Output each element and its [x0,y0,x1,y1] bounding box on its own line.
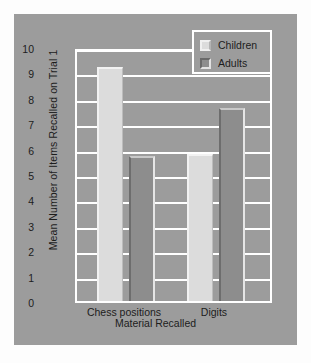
legend-item-adults: Adults [200,54,270,72]
y-axis-tick-label: 9 [8,68,34,80]
bar-children-0 [97,67,123,301]
legend-label-children: Children [218,39,257,51]
y-axis-tick-label: 8 [8,94,34,106]
plot-area [75,49,272,303]
bar-adults-1 [219,108,245,301]
y-axis-tick-label: 6 [8,145,34,157]
y-axis-tick-label: 1 [8,272,34,284]
bar-children-1 [187,154,213,301]
x-axis-title: Material Recalled [14,317,297,329]
y-axis-tick-label: 0 [8,297,34,309]
legend-swatch-adults-icon [200,58,211,69]
legend: Children Adults [192,30,272,74]
y-axis-tick-label: 4 [8,195,34,207]
y-axis-tick-label: 10 [8,43,34,55]
legend-item-children: Children [200,36,270,54]
y-axis-tick-label: 2 [8,246,34,258]
y-axis-tick-label: 7 [8,119,34,131]
y-axis-tick-label: 5 [8,170,34,182]
y-axis-tick-label: 3 [8,221,34,233]
chart-figure: Mean Number of Items Recalled on Trial 1… [14,14,297,345]
legend-label-adults: Adults [218,57,247,69]
y-axis-title: Mean Number of Items Recalled on Trial 1 [47,43,63,257]
bar-adults-0 [129,156,155,301]
legend-swatch-children-icon [200,40,211,51]
